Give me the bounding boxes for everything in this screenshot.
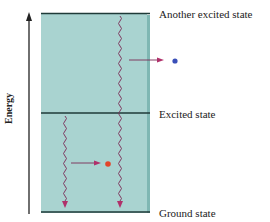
energy-axis-label: Energy — [3, 93, 14, 124]
another-excited-state-label: Another excited state — [159, 8, 252, 20]
blue-photon-dot — [172, 58, 177, 63]
energy-level-diagram: Another excited state Excited state Grou… — [0, 0, 270, 222]
excited-state-label: Excited state — [159, 108, 216, 120]
red-photon-dot — [105, 161, 111, 167]
diagram-graphic — [0, 0, 270, 222]
ground-state-label: Ground state — [159, 207, 216, 219]
energy-axis-arrow — [26, 12, 32, 214]
